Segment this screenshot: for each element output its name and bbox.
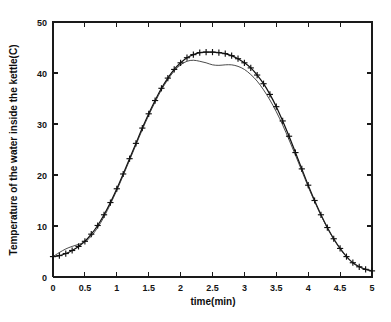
chart-figure: 00.511.522.533.544.55 01020304050 time(m… <box>0 0 391 322</box>
y-axis-ticks: 01020304050 <box>37 18 372 283</box>
series-line-model <box>53 60 372 271</box>
x-tick-label: 1 <box>114 283 119 293</box>
y-axis-title: Temperature of the water inside the kett… <box>8 45 19 256</box>
x-tick-label: 1.5 <box>142 283 155 293</box>
x-axis-title: time(min) <box>191 296 236 307</box>
data-point-marker <box>229 53 235 59</box>
data-point-marker <box>120 171 126 177</box>
temperature-vs-time-plot: 00.511.522.533.544.55 01020304050 time(m… <box>0 0 391 322</box>
data-marker-layer <box>50 49 375 274</box>
data-point-marker <box>305 182 311 188</box>
plot-frame <box>53 22 372 277</box>
y-tick-label: 50 <box>37 18 47 28</box>
data-point-marker <box>235 56 241 62</box>
data-point-marker <box>369 268 375 274</box>
x-tick-label: 4.5 <box>334 283 347 293</box>
data-point-marker <box>126 156 132 162</box>
data-point-marker <box>311 197 317 203</box>
y-tick-label: 40 <box>37 69 47 79</box>
data-point-marker <box>209 49 215 55</box>
y-tick-label: 0 <box>42 273 47 283</box>
data-point-marker <box>216 50 222 56</box>
x-tick-label: 4 <box>306 283 311 293</box>
x-tick-label: 2.5 <box>206 283 219 293</box>
data-point-marker <box>114 186 120 192</box>
data-point-marker <box>139 125 145 131</box>
data-point-marker <box>318 212 324 218</box>
x-tick-label: 3.5 <box>270 283 283 293</box>
x-tick-label: 5 <box>369 283 374 293</box>
x-tick-label: 0.5 <box>79 283 92 293</box>
data-point-marker <box>222 51 228 57</box>
data-point-marker <box>197 50 203 56</box>
data-point-marker <box>363 266 369 272</box>
data-point-marker <box>69 247 75 253</box>
series-line-measured <box>53 52 372 271</box>
x-axis-ticks: 00.511.522.533.544.55 <box>50 22 374 293</box>
x-tick-label: 0 <box>50 283 55 293</box>
y-tick-label: 20 <box>37 171 47 181</box>
data-point-marker <box>331 236 337 242</box>
data-point-marker <box>63 250 69 256</box>
data-point-marker <box>280 118 286 124</box>
data-point-marker <box>50 254 56 260</box>
data-point-marker <box>324 224 330 230</box>
x-tick-label: 3 <box>242 283 247 293</box>
x-tick-label: 2 <box>178 283 183 293</box>
data-series-layer <box>53 52 372 271</box>
data-point-marker <box>190 52 196 58</box>
y-tick-label: 30 <box>37 120 47 130</box>
data-point-marker <box>299 166 305 172</box>
data-point-marker <box>203 49 209 55</box>
data-point-marker <box>356 264 362 270</box>
y-tick-label: 10 <box>37 222 47 232</box>
data-point-marker <box>273 104 279 110</box>
data-point-marker <box>133 140 139 146</box>
